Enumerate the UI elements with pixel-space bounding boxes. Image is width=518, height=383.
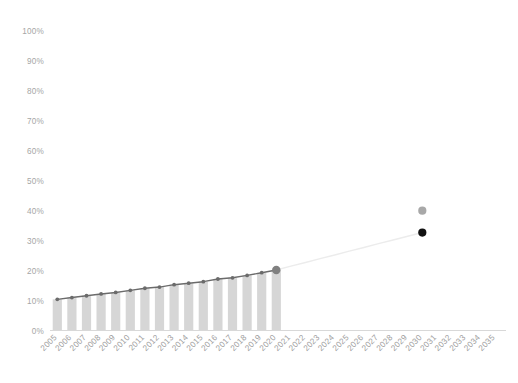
bar [257, 273, 266, 331]
line-marker [128, 288, 132, 292]
bar [199, 282, 208, 331]
line-marker [99, 292, 103, 296]
bar [272, 270, 281, 330]
bar [228, 278, 237, 331]
line-marker [172, 283, 176, 287]
bar [53, 299, 62, 330]
chart-container: 0%10%20%30%40%50%60%70%80%90%100% 200520… [0, 0, 518, 383]
y-axis-tick-label: 30% [27, 237, 44, 246]
bar [82, 296, 91, 331]
line-marker [143, 286, 147, 290]
bar [213, 279, 222, 331]
line-marker [216, 277, 220, 281]
bar-series [53, 270, 281, 330]
bar [67, 298, 76, 331]
line-marker [201, 280, 205, 284]
projection-line [276, 233, 422, 270]
projection-line-series [276, 233, 422, 270]
bar [126, 290, 135, 330]
line-marker [70, 296, 74, 300]
x-axis-tick-label: 2035 [477, 333, 497, 353]
line-marker [114, 291, 118, 295]
line-marker [260, 271, 264, 275]
line-marker [245, 273, 249, 277]
chart-canvas: 0%10%20%30%40%50%60%70%80%90%100% 200520… [0, 0, 518, 383]
upper-target-2030-dot [418, 207, 426, 215]
bar [155, 287, 164, 330]
line-marker [158, 285, 162, 289]
line-endpoint-marker [272, 266, 280, 274]
line-marker [85, 294, 89, 298]
y-axis-tick-labels: 0%10%20%30%40%50%60%70%80%90%100% [22, 27, 44, 336]
line-marker [231, 276, 235, 280]
target-points [418, 207, 426, 237]
y-axis-tick-label: 0% [32, 327, 44, 336]
y-axis-tick-label: 80% [27, 87, 44, 96]
lower-target-2030-dot [418, 228, 426, 236]
y-axis-tick-label: 50% [27, 177, 44, 186]
y-axis-tick-label: 20% [27, 267, 44, 276]
y-axis-tick-label: 90% [27, 57, 44, 66]
bar [243, 275, 252, 330]
line-marker [187, 281, 191, 285]
y-axis-tick-label: 10% [27, 297, 44, 306]
y-axis-tick-label: 100% [22, 27, 44, 36]
x-axis-tick-labels: 2005200620072008200920102011201220132014… [39, 333, 497, 353]
bar [140, 288, 149, 330]
bar [97, 294, 106, 331]
bar [111, 292, 120, 330]
y-axis-tick-label: 70% [27, 117, 44, 126]
bar [184, 283, 193, 330]
y-axis-tick-label: 60% [27, 147, 44, 156]
line-marker [55, 297, 59, 301]
bar [170, 285, 179, 331]
y-axis-tick-label: 40% [27, 207, 44, 216]
